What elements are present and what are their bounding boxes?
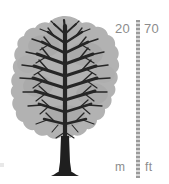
scale-imperial-value: 70 bbox=[144, 22, 159, 35]
tree-scale-figure: 20 70 m ft bbox=[0, 0, 169, 184]
scale-metric-unit: m bbox=[115, 161, 125, 174]
scale-bar bbox=[136, 20, 140, 178]
tree-illustration bbox=[10, 12, 122, 182]
ground-line-tick bbox=[0, 163, 4, 167]
scale-imperial-unit: ft bbox=[145, 161, 152, 174]
tree-trunk bbox=[51, 136, 79, 176]
tree-graphic bbox=[10, 12, 122, 182]
scale-metric-value: 20 bbox=[115, 22, 130, 35]
